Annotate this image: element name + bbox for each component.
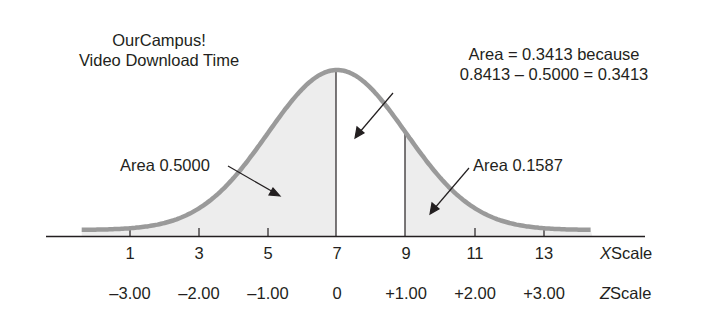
- x-tick-label: 11: [435, 244, 515, 263]
- title-line-1: OurCampus!: [0, 30, 318, 50]
- annotation-middle: Area = 0.3413 because 0.8413 – 0.5000 = …: [418, 44, 690, 84]
- shaded-area-left: [82, 70, 593, 236]
- z-tick-label: +1.00: [366, 284, 446, 303]
- x-scale-label: XScale: [600, 244, 652, 263]
- annotation-left: Area 0.5000: [120, 155, 210, 175]
- x-scale-variable: X: [600, 244, 611, 262]
- z-tick-label: 0: [297, 284, 377, 303]
- annotation-right: Area 0.1587: [473, 155, 563, 175]
- z-tick-label: –1.00: [228, 284, 308, 303]
- annotation-middle-line-1: Area = 0.3413 because: [418, 44, 690, 64]
- x-tick-label: 1: [90, 244, 170, 263]
- x-scale-word: Scale: [611, 244, 652, 262]
- x-tick-label: 5: [228, 244, 308, 263]
- chart-title: OurCampus! Video Download Time: [0, 30, 318, 70]
- x-tick-label: 7: [297, 244, 377, 263]
- z-tick-label: –2.00: [159, 284, 239, 303]
- x-tick-label: 3: [159, 244, 239, 263]
- shaded-area-right: [82, 70, 593, 236]
- z-scale-word: Scale: [610, 284, 651, 302]
- z-scale-label: ZScale: [600, 284, 651, 303]
- z-tick-label: –3.00: [90, 284, 170, 303]
- arrow-middle: [355, 93, 393, 138]
- annotation-middle-line-2: 0.8413 – 0.5000 = 0.3413: [418, 64, 690, 84]
- x-tick-label: 9: [366, 244, 446, 263]
- z-tick-label: +2.00: [435, 284, 515, 303]
- title-line-2: Video Download Time: [0, 50, 318, 70]
- z-scale-variable: Z: [600, 284, 610, 302]
- z-tick-label: +3.00: [504, 284, 584, 303]
- x-tick-label: 13: [504, 244, 584, 263]
